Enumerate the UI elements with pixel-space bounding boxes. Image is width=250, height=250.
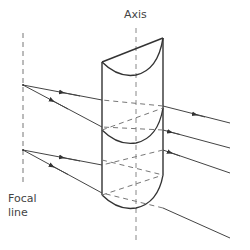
focal-point-1 <box>22 84 24 86</box>
focal-line-label-line2: line <box>8 206 28 220</box>
focal-point-2 <box>22 149 24 151</box>
cylindrical-lens <box>102 38 163 208</box>
incident-ray-4 <box>163 208 230 238</box>
cylindrical-lens-diagram: Axis Focal line <box>0 0 250 250</box>
hidden-edges <box>102 108 163 195</box>
axis-label: Axis <box>124 8 147 22</box>
ray-group-lower <box>23 150 230 238</box>
diagram-canvas <box>0 0 250 250</box>
ray-group-upper <box>23 85 230 148</box>
focal-line-label-line1: Focal <box>8 192 37 206</box>
